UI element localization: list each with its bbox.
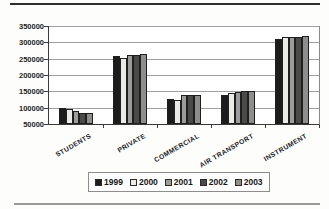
bar-commercial-2002 bbox=[187, 95, 194, 124]
bar-instrument-2001 bbox=[289, 37, 296, 124]
bar-instrument-1999 bbox=[275, 39, 282, 124]
bar-air-transport-2000 bbox=[228, 93, 235, 124]
bar-commercial-2003 bbox=[194, 95, 201, 124]
x-axis-tick bbox=[103, 125, 104, 128]
bar-private-1999 bbox=[113, 56, 120, 124]
y-axis-tick bbox=[44, 124, 48, 125]
y-axis-tick-label: 50000 bbox=[4, 121, 44, 128]
legend-label: 2001 bbox=[174, 178, 193, 187]
legend-label: 2002 bbox=[209, 178, 228, 187]
x-axis-category-label: AIR TRANSPORT bbox=[198, 132, 254, 169]
bar-commercial-2000 bbox=[174, 100, 181, 124]
bar-private-2003 bbox=[140, 54, 147, 124]
bar-students-2001 bbox=[73, 111, 80, 124]
y-axis-tick-label: 350000 bbox=[4, 23, 44, 30]
legend-item-2000: 2000 bbox=[130, 178, 158, 187]
x-axis-tick bbox=[265, 125, 266, 128]
y-axis-tick-label: 300000 bbox=[4, 39, 44, 46]
bar-private-2000 bbox=[120, 58, 127, 124]
bar-commercial-1999 bbox=[167, 99, 174, 124]
y-axis-tick-label: 250000 bbox=[4, 56, 44, 63]
y-axis-tick bbox=[44, 75, 48, 76]
bar-air-transport-1999 bbox=[221, 95, 228, 124]
y-axis-tick bbox=[44, 26, 48, 27]
bar-students-2002 bbox=[79, 113, 86, 124]
legend: 19992000200120022003 bbox=[88, 172, 270, 192]
bar-students-1999 bbox=[59, 108, 66, 124]
top-divider-rule bbox=[10, 3, 320, 5]
x-axis-category-label: PRIVATE bbox=[116, 132, 147, 154]
y-axis-tick-label: 200000 bbox=[4, 72, 44, 79]
legend-label: 2003 bbox=[244, 178, 263, 187]
x-axis-category-label: STUDENTS bbox=[54, 132, 92, 158]
bar-students-2003 bbox=[86, 113, 93, 124]
document-page: 3500003000002500002000001500001000005000… bbox=[0, 0, 329, 209]
y-axis-tick-label: 100000 bbox=[4, 105, 44, 112]
bar-air-transport-2003 bbox=[248, 91, 255, 124]
legend-swatch-2000 bbox=[130, 179, 137, 186]
legend-label: 1999 bbox=[104, 178, 123, 187]
bar-private-2002 bbox=[133, 55, 140, 124]
legend-swatch-2001 bbox=[165, 179, 172, 186]
legend-label: 2000 bbox=[139, 178, 158, 187]
legend-swatch-2003 bbox=[235, 179, 242, 186]
legend-item-1999: 1999 bbox=[95, 178, 123, 187]
bar-private-2001 bbox=[127, 55, 134, 124]
x-axis-category-label: INSTRUMENT bbox=[263, 132, 309, 162]
legend-item-2003: 2003 bbox=[235, 178, 263, 187]
bar-air-transport-2002 bbox=[241, 91, 248, 124]
plot-area bbox=[48, 26, 320, 125]
y-axis-tick bbox=[44, 59, 48, 60]
x-axis-tick bbox=[157, 125, 158, 128]
bar-air-transport-2001 bbox=[235, 92, 242, 124]
legend-item-2001: 2001 bbox=[165, 178, 193, 187]
y-axis-tick-label: 150000 bbox=[4, 88, 44, 95]
x-axis-tick bbox=[319, 125, 320, 128]
y-axis-tick bbox=[44, 91, 48, 92]
x-axis-tick bbox=[211, 125, 212, 128]
legend-item-2002: 2002 bbox=[200, 178, 228, 187]
bar-commercial-2001 bbox=[181, 95, 188, 124]
legend-swatch-1999 bbox=[95, 179, 102, 186]
y-axis-tick bbox=[44, 108, 48, 109]
legend-swatch-2002 bbox=[200, 179, 207, 186]
gridline bbox=[49, 26, 319, 27]
bar-instrument-2002 bbox=[295, 37, 302, 124]
bar-instrument-2003 bbox=[302, 36, 309, 124]
bottom-divider-rule bbox=[14, 203, 320, 205]
bar-instrument-2000 bbox=[282, 37, 289, 124]
y-axis-tick bbox=[44, 42, 48, 43]
x-axis-category-label: COMMERCIAL bbox=[153, 132, 201, 163]
bar-students-2000 bbox=[66, 109, 73, 124]
